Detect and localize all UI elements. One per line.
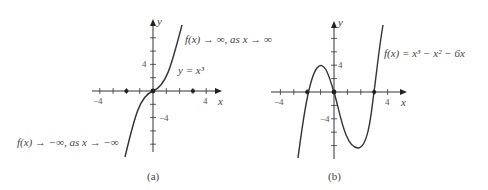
panel-a-x-label: x — [218, 95, 223, 107]
panel-a-function-label: y = x³ — [178, 64, 204, 76]
panel-a-annotation-bottom: f(x) → −∞, as x → −∞ — [17, 136, 119, 148]
panel-a-y-label: y — [157, 15, 162, 27]
panel-b-tick-x-pos: 4 — [385, 97, 390, 107]
panel-a-tick-x-neg: −4 — [93, 96, 103, 106]
panel-a-x-arrow — [215, 88, 222, 94]
panel-a-annotation-top: f(x) → ∞, as x → ∞ — [185, 33, 272, 45]
panel-b-tick-x-neg: −4 — [274, 97, 284, 107]
panel-b-function-label: f(x) = x³ − x² − 6x — [384, 47, 465, 59]
panel-b-caption: (b) — [328, 170, 341, 182]
panel-a-y-arrow — [150, 19, 156, 26]
panel-a-tick-y-neg: −4 — [159, 113, 169, 123]
panel-b-x-arrow — [400, 89, 407, 95]
panel-a-tick-x-pos: 4 — [203, 96, 208, 106]
panel-b-axes — [271, 23, 404, 159]
panel-a-caption: (a) — [147, 170, 159, 182]
panel-b-y-arrow — [331, 21, 337, 28]
panel-b-tick-y-neg: −4 — [320, 114, 330, 124]
panel-b-tick-y-pos: 4 — [338, 60, 343, 70]
panel-b-y-label: y — [338, 16, 343, 28]
panel-a-tick-y-pos: 4 — [142, 59, 147, 69]
figure-canvas — [0, 0, 488, 190]
panel-b-x-label: x — [401, 96, 406, 108]
